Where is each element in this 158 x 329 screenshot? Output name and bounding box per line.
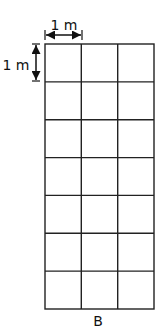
vertical-dimension-label: 1 m — [3, 57, 30, 73]
vertical-dimension: 1 m — [3, 44, 41, 81]
grid-diagram: 1 m 1 m B — [0, 0, 158, 329]
horizontal-dimension: 1 m — [45, 17, 82, 40]
grid — [45, 44, 154, 309]
horizontal-dimension-label: 1 m — [51, 17, 78, 33]
diagram-caption: B — [93, 313, 103, 329]
